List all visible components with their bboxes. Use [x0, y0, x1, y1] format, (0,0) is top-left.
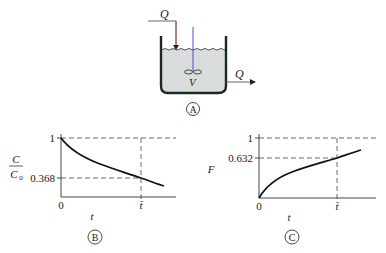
panel-a-label: A [189, 104, 197, 115]
y-label-numerator: C [12, 153, 20, 165]
panel-a-tank: Q V Q A [148, 7, 256, 116]
x-tick-tbar: t̄ [139, 199, 143, 211]
y-tick-0368: 0.368 [30, 172, 55, 184]
cumulative-curve [259, 150, 361, 198]
y-label-subscript: 0 [19, 174, 23, 182]
y-label: F [207, 163, 215, 175]
outflow-arrow-icon [250, 79, 256, 85]
diagram-canvas: Q V Q A 1 0.368 0 t̄ C [0, 0, 386, 253]
panel-c-label: C [289, 232, 296, 243]
outflow-label: Q [235, 67, 244, 81]
y-tick-1: 1 [248, 132, 254, 144]
x-tick-0: 0 [256, 200, 262, 212]
inflow-label: Q [160, 7, 169, 21]
panel-b-label: B [92, 232, 99, 243]
x-label: t [287, 211, 291, 223]
y-tick-1: 1 [50, 132, 56, 144]
y-label-denominator: C [10, 168, 18, 180]
x-tick-tbar: t̄ [335, 200, 339, 212]
x-tick-0: 0 [58, 199, 64, 211]
panel-c-chart: 1 0.632 0 t̄ F t C [207, 132, 376, 244]
y-tick-0632: 0.632 [228, 152, 253, 164]
x-label: t [90, 210, 94, 222]
decay-curve [61, 138, 164, 186]
panel-b-chart: 1 0.368 0 t̄ C C 0 t B [9, 132, 176, 244]
